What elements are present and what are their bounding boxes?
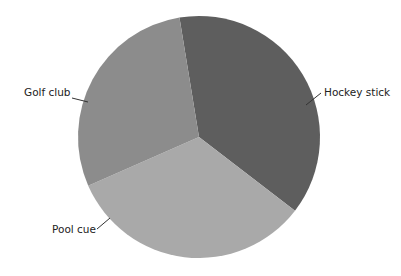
pie-chart: Hockey stickPool cueGolf club (0, 0, 401, 276)
leader-line (97, 218, 110, 229)
pie-slices (78, 16, 320, 258)
slice-label: Pool cue (52, 223, 96, 235)
slice-label: Golf club (24, 86, 71, 98)
slice-label: Hockey stick (324, 86, 391, 98)
